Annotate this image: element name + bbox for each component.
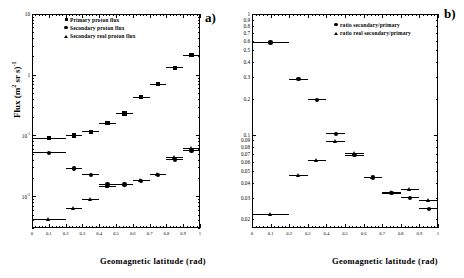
y-tick: [252, 154, 254, 155]
y-tick: [198, 32, 200, 33]
x-tick: [109, 226, 110, 228]
y-tick: [436, 26, 438, 27]
x-tick: [66, 14, 67, 18]
point-marker-square: [105, 121, 109, 125]
y-tick: [198, 93, 200, 94]
x-tick: [96, 14, 97, 16]
x-tick: [200, 14, 201, 18]
x-tick: [271, 14, 272, 18]
y-tick: [32, 27, 34, 28]
legend-item: Primary proton flux: [62, 17, 136, 25]
x-tick: [119, 226, 120, 228]
y-tick: [198, 145, 200, 146]
x-tick-label: 0.5: [107, 231, 125, 236]
y-tick: [252, 140, 254, 141]
x-tick: [89, 226, 90, 228]
y-tick: [32, 99, 34, 100]
y-tick: [198, 199, 200, 200]
x-tick: [92, 14, 93, 16]
x-tick: [183, 14, 184, 18]
x-tick: [140, 14, 141, 16]
x-tick: [126, 14, 127, 16]
x-tick: [187, 14, 188, 16]
y-tick-label: 0.5: [234, 47, 250, 53]
legend-item: Secondary proton flux: [62, 25, 136, 33]
x-tick: [136, 226, 137, 228]
point-marker-triangle: [426, 198, 430, 202]
x-tick: [315, 226, 316, 228]
x-tick: [371, 226, 372, 228]
x-tick: [393, 14, 394, 16]
y-tick-label: 0.08: [234, 144, 250, 150]
y-tick: [32, 56, 34, 57]
y-tick: [252, 171, 254, 172]
point-marker-triangle: [314, 158, 318, 162]
x-tick: [56, 226, 57, 228]
x-tick-label: 0.6: [355, 231, 373, 236]
x-tick: [62, 14, 63, 16]
y-tick: [198, 88, 200, 89]
y-tick: [198, 141, 200, 142]
y-tick: [198, 17, 200, 18]
x-tick: [282, 226, 283, 228]
y-tick: [252, 183, 254, 184]
x-tick: [326, 224, 327, 228]
y-tick: [252, 33, 254, 34]
x-tick: [56, 14, 57, 16]
x-tick: [180, 226, 181, 228]
point-marker-circle: [427, 207, 431, 211]
x-tick: [330, 14, 331, 16]
x-tick-label: 0.9: [174, 231, 192, 236]
y-tick: [196, 14, 200, 15]
y-tick: [32, 145, 34, 146]
x-tick: [390, 14, 391, 16]
point-marker-square: [173, 66, 177, 70]
y-tick-label: 0.09: [234, 137, 250, 143]
y-tick: [32, 228, 34, 229]
y-tick: [32, 38, 34, 39]
point-marker-circle: [296, 77, 300, 81]
x-tick: [92, 226, 93, 228]
x-tick: [49, 224, 50, 228]
x-tick: [129, 226, 130, 228]
y-tick: [198, 202, 200, 203]
point-marker-square: [72, 133, 76, 137]
x-tick: [187, 226, 188, 228]
x-tick: [146, 14, 147, 16]
x-tick: [183, 224, 184, 228]
legend-item: Secondary real proton flux: [62, 33, 136, 41]
x-tick: [308, 14, 309, 18]
point-marker-triangle: [268, 212, 272, 216]
x-tick: [319, 226, 320, 228]
x-tick: [278, 14, 279, 16]
y-tick: [32, 81, 34, 82]
x-tick: [297, 14, 298, 16]
x-tick: [289, 224, 290, 228]
y-tick: [198, 206, 200, 207]
y-tick: [436, 198, 438, 199]
x-tick: [193, 226, 194, 228]
legend-glyph: [334, 32, 338, 35]
x-tick: [378, 14, 379, 16]
y-tick: [436, 50, 438, 51]
x-tick-label: 1: [191, 231, 209, 236]
legend-marker-triangle: [332, 31, 340, 36]
y-tick: [196, 196, 200, 197]
y-tick: [252, 14, 256, 15]
x-tick: [416, 14, 417, 16]
x-tick-label: 0.3: [73, 231, 91, 236]
x-tick: [352, 226, 353, 228]
plot-area-a: [32, 14, 200, 228]
legend-item: ratio secondary/primary: [332, 22, 411, 30]
point-marker-circle: [89, 173, 93, 177]
x-tick: [274, 226, 275, 228]
x-tick: [300, 14, 301, 16]
y-tick: [32, 160, 34, 161]
x-tick: [103, 226, 104, 228]
legend-item: ratio real secondary/primary: [332, 30, 411, 38]
x-tick-label: 0.3: [299, 231, 317, 236]
x-tick: [338, 14, 339, 16]
point-marker-triangle: [352, 151, 356, 155]
x-tick: [143, 226, 144, 228]
x-tick: [289, 14, 290, 18]
